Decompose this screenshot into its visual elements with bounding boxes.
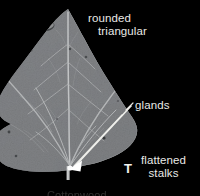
annotation-glands: glands <box>135 99 170 112</box>
bottom-caption-text: Cottonwood <box>47 189 107 196</box>
annotation-rounded-triangular: rounded triangular <box>88 12 147 37</box>
panel-letter-text: T <box>124 161 132 176</box>
annotation-glands-label: glands <box>135 99 170 112</box>
leaf-diagram-figure: rounded triangular glands flattened stal… <box>0 0 200 196</box>
bottom-caption: Cottonwood <box>47 189 107 196</box>
annotation-flattened-stalks-line2: stalks <box>141 167 186 180</box>
annotation-flattened-stalks: flattened stalks <box>141 154 186 180</box>
annotation-rounded-triangular-line1: rounded <box>88 12 147 25</box>
panel-letter-label: T <box>124 163 132 176</box>
annotation-rounded-triangular-line2: triangular <box>88 25 147 38</box>
annotation-flattened-stalks-line1: flattened <box>141 154 186 167</box>
